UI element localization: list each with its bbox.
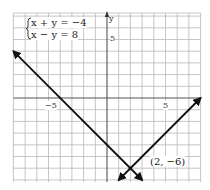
- intersection-label: (2, −6): [150, 156, 185, 167]
- line-x-plus-y-eq-neg4: [13, 51, 142, 180]
- y-tick-5: 5: [110, 34, 115, 43]
- x-tick-neg5: −5: [45, 101, 57, 110]
- x-tick-5: 5: [163, 101, 168, 110]
- equation-1: x + y = −4: [31, 17, 87, 28]
- y-axis-label: y: [109, 14, 114, 23]
- equation-2: x − y = 8: [31, 29, 78, 40]
- intersection-point: [129, 167, 132, 170]
